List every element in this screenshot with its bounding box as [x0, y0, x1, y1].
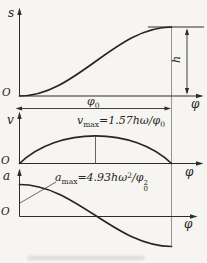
s-y-axis-arrow	[17, 8, 21, 16]
vmax-value: =1.57	[99, 114, 133, 127]
vmax-expr-sub: 0	[160, 120, 165, 129]
amax-expr: hω	[111, 171, 127, 184]
h-dimension-arrow-down	[185, 88, 189, 95]
a-curve	[20, 185, 172, 247]
h-dimension-label: h	[171, 56, 182, 63]
amax-slash-phi: /φ	[132, 171, 143, 184]
phi0-sub: 0	[95, 101, 100, 110]
v-x-axis-phi-label: φ	[185, 166, 193, 178]
phi0-label: φ0	[87, 96, 99, 109]
amax-denom-stack: 20	[143, 181, 147, 193]
a-origin-label: O	[1, 206, 10, 217]
v-x-axis-arrow	[196, 161, 204, 165]
amax-value: =4.93	[77, 171, 111, 184]
s-curve	[20, 27, 172, 96]
amax-label: amax=4.93hω2/φ20	[55, 172, 148, 193]
motion-diagram-figure: s O φ φ0 h v vmax=1.57hω/φ0 O φ a amax=4…	[0, 0, 207, 263]
phi0-base: φ	[87, 95, 95, 108]
amax-denom-sub: 0	[143, 187, 147, 193]
caption-remnant	[27, 256, 145, 260]
s-axis-label: s	[8, 7, 14, 19]
h-dimension-arrow-up	[185, 29, 189, 36]
figure-canvas	[0, 0, 207, 263]
phi0-dimension-arrow-left	[16, 106, 23, 110]
vmax-var-sub: max	[83, 120, 99, 129]
vmax-label: vmax=1.57hω/φ0	[77, 115, 165, 128]
a-x-axis-phi-label: φ	[184, 218, 192, 230]
amax-var-sub: max	[62, 177, 78, 186]
s-x-axis-phi-label: φ	[191, 98, 199, 110]
v-y-axis-arrow	[17, 112, 21, 120]
a-y-axis-arrow	[17, 169, 21, 177]
s-origin-label: O	[2, 87, 11, 98]
vmax-expr: hω/φ	[133, 114, 160, 127]
phi0-dimension-arrow-right	[165, 106, 172, 110]
a-axis-label: a	[3, 170, 10, 182]
v-origin-label: O	[1, 155, 10, 166]
v-axis-label: v	[7, 114, 14, 126]
